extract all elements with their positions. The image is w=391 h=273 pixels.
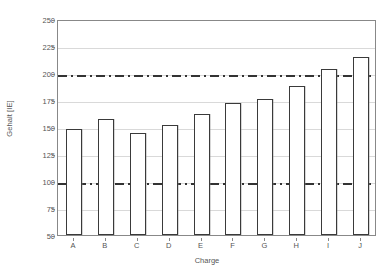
y-tick-mark <box>52 47 55 48</box>
y-tick-mark <box>52 155 55 156</box>
y-tick-mark <box>52 74 55 75</box>
x-tick-mark <box>201 238 202 241</box>
x-tick-mark <box>328 238 329 241</box>
plot-area <box>57 20 376 236</box>
y-axis-ticks: 5075100125150175200225250 <box>0 20 55 236</box>
y-tick-label: 50 <box>7 232 55 241</box>
y-tick-mark <box>52 209 55 210</box>
x-tick-label: H <box>294 241 299 250</box>
x-tick-mark <box>360 238 361 241</box>
y-tick-mark <box>52 128 55 129</box>
y-tick-mark <box>52 101 55 102</box>
x-tick-mark <box>296 238 297 241</box>
bar <box>98 119 114 235</box>
x-tick-label: A <box>70 241 75 250</box>
y-tick-label: 175 <box>7 97 55 106</box>
y-tick-label: 200 <box>7 70 55 79</box>
x-axis-ticks: ABCDEFGHIJ <box>57 238 376 254</box>
x-tick-mark <box>232 238 233 241</box>
x-tick-label: C <box>134 241 139 250</box>
x-tick-label: F <box>230 241 235 250</box>
gridline <box>58 48 375 49</box>
x-tick-mark <box>169 238 170 241</box>
x-tick-label: D <box>166 241 171 250</box>
x-tick-label: I <box>327 241 329 250</box>
bar <box>130 133 146 235</box>
x-tick-mark <box>73 238 74 241</box>
bar <box>257 99 273 235</box>
x-tick-label: J <box>358 241 362 250</box>
y-tick-mark <box>52 182 55 183</box>
y-tick-mark <box>52 236 55 237</box>
y-tick-label: 225 <box>7 43 55 52</box>
bar <box>321 69 337 235</box>
bar <box>289 86 305 235</box>
x-tick-label: E <box>198 241 203 250</box>
y-tick-mark <box>52 20 55 21</box>
x-axis-label: Charge <box>38 256 376 265</box>
x-tick-label: B <box>102 241 107 250</box>
y-tick-label: 125 <box>7 151 55 160</box>
x-tick-mark <box>137 238 138 241</box>
x-tick-mark <box>264 238 265 241</box>
bar <box>66 129 82 235</box>
x-tick-label: G <box>261 241 267 250</box>
x-tick-mark <box>105 238 106 241</box>
bar <box>194 114 210 235</box>
bar <box>225 103 241 235</box>
bar-chart: Gehalt [IE] 5075100125150175200225250 AB… <box>0 0 391 273</box>
y-tick-label: 150 <box>7 124 55 133</box>
bar <box>353 57 369 235</box>
y-tick-label: 250 <box>7 16 55 25</box>
y-tick-label: 75 <box>7 205 55 214</box>
y-tick-label: 100 <box>7 178 55 187</box>
bar <box>162 125 178 235</box>
